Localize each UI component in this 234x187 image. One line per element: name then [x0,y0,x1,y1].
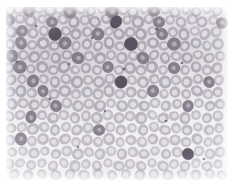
erythrocyte [69,122,85,138]
erythrocyte [112,73,129,90]
erythrocyte [148,73,161,85]
erythrocyte [155,111,170,126]
erythrocyte [46,16,58,27]
erythrocyte [13,108,27,121]
erythrocyte [24,158,38,172]
erythrocyte [26,145,42,160]
erythrocyte [15,84,27,97]
erythrocyte [90,26,106,42]
erythrocyte [136,123,149,137]
erythrocyte [167,157,181,171]
erythrocyte [182,99,195,113]
erythrocyte [123,84,138,99]
erythrocyte [212,86,224,98]
erythrocyte [82,145,96,159]
erythrocyte [37,72,51,86]
erythrocyte [13,157,26,170]
erythrocyte [148,168,159,180]
erythrocyte [169,121,182,135]
erythrocyte [92,75,106,89]
erythrocyte [166,25,180,39]
erythrocyte [114,41,126,51]
erythrocyte [49,123,61,137]
erythrocyte [138,149,150,160]
erythrocyte [124,134,138,147]
erythrocyte [192,49,205,61]
erythrocyte [192,122,203,133]
platelet-dot [68,63,70,65]
erythrocyte [38,48,52,61]
erythrocyte [40,146,50,156]
platelet-dot [203,158,206,161]
erythrocyte [167,132,182,147]
photomicrograph-figure: peripheral blood smear erythrocyte bicon… [0,0,234,187]
erythrocyte [25,86,40,101]
erythrocyte [25,25,40,40]
erythrocyte [90,86,105,101]
erythrocyte [126,122,138,134]
erythrocyte [25,121,41,137]
erythrocyte [212,158,224,170]
erythrocyte [210,132,225,147]
erythrocyte [79,132,95,148]
erythrocyte [190,61,202,73]
erythrocyte [59,120,73,134]
erythrocyte [201,64,214,76]
erythrocyte [210,36,227,53]
erythrocyte [91,135,105,150]
erythrocyte [16,73,28,86]
erythrocyte [51,52,62,63]
erythrocyte [146,132,160,147]
platelet-dot [155,27,158,30]
erythrocyte [103,72,117,86]
erythrocyte-layer [6,7,228,180]
erythrocyte [6,72,19,88]
erythrocyte [81,86,94,99]
erythrocyte [33,7,45,14]
platelet-dot [104,110,106,112]
erythrocyte [104,144,119,158]
erythrocyte [102,84,115,98]
erythrocyte [146,36,160,49]
erythrocyte [159,99,173,113]
erythrocyte [6,97,19,112]
erythrocyte [24,110,37,125]
erythrocyte [102,132,116,147]
erythrocyte [189,25,201,36]
erythrocyte [61,50,73,60]
erythrocyte [103,36,116,51]
erythrocyte [157,74,174,91]
erythrocyte [203,99,218,113]
erythrocyte [16,48,31,63]
erythrocyte [26,40,37,51]
erythrocyte [35,131,52,147]
erythrocyte [115,124,127,136]
platelet-dot [77,146,79,148]
erythrocyte [37,84,50,98]
erythrocyte [146,84,160,98]
erythrocyte [213,49,227,63]
erythrocyte [169,73,183,88]
platelet-dot [123,68,126,71]
erythrocyte [115,137,125,148]
erythrocyte [25,63,36,74]
erythrocyte [69,111,82,125]
erythrocyte [188,167,204,180]
erythrocyte [170,145,184,159]
erythrocyte [6,134,16,146]
erythrocyte [82,122,94,135]
erythrocyte [146,157,158,169]
erythrocyte [93,124,105,136]
erythrocyte [213,97,228,112]
erythrocyte [81,73,95,87]
erythrocyte [69,27,83,41]
erythrocyte [104,96,118,110]
erythrocyte [50,76,61,89]
erythrocyte [134,111,148,125]
erythrocyte [157,64,169,77]
erythrocyte [214,122,224,133]
platelet-dot [91,37,94,40]
erythrocyte [91,39,105,54]
erythrocyte [170,97,184,111]
erythrocyte [34,35,51,52]
